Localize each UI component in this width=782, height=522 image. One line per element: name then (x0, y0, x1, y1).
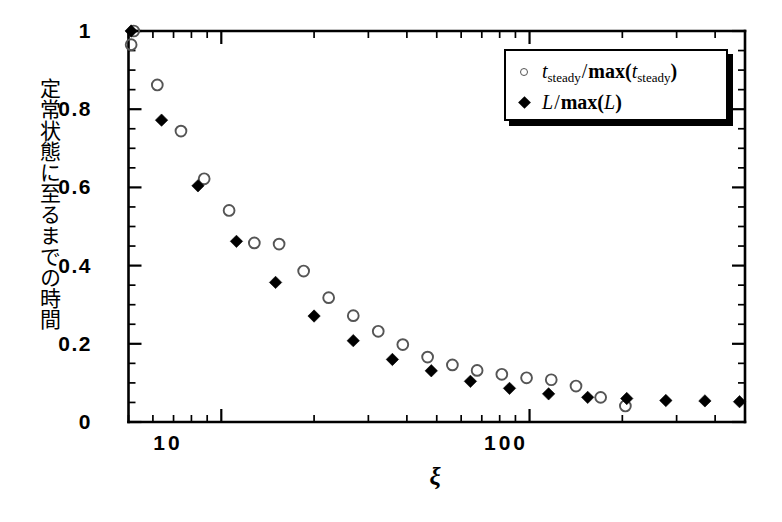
legend-denominator-fn: max (588, 60, 625, 82)
legend-entry-label: L/max(L) (542, 92, 622, 112)
legend-box: tsteady/max(tsteady) L/max(L) (504, 49, 728, 121)
filled-diamond-icon (506, 98, 542, 107)
legend-entry-l: L/max(L) (506, 87, 726, 117)
x-tick-label: 10 (138, 432, 198, 453)
figure-canvas: 1 0.8 0.6 0.4 0.2 0 10 100 ξ 定常状態に至るまでの時… (0, 0, 782, 522)
y-tick-label: 1 (18, 20, 92, 41)
y-axis-title: 定常状態に至るまでの時間 (30, 78, 60, 330)
y-tick-label: 0 (18, 411, 92, 432)
legend-denominator-symbol: L (604, 91, 615, 113)
y-tick-label: 0.2 (18, 333, 92, 354)
open-circle-icon (506, 68, 542, 76)
x-axis-title: ξ (410, 464, 460, 489)
legend-numerator-subscript: steady (548, 69, 581, 84)
legend-denominator-fn: max (561, 91, 598, 113)
legend-numerator-symbol: L (542, 91, 553, 113)
legend-entry-label: tsteady/max(tsteady) (542, 61, 677, 84)
x-tick-label: 100 (466, 432, 546, 453)
legend-entry-t-steady: tsteady/max(tsteady) (506, 57, 726, 87)
legend-denominator-subscript: steady (637, 69, 670, 84)
